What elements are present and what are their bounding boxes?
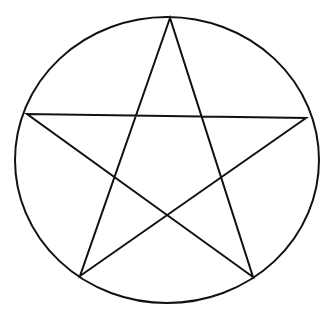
circle-outline — [15, 17, 319, 303]
pentagram-figure — [0, 0, 328, 322]
drawing-canvas — [0, 0, 328, 322]
pentagram-star — [27, 18, 306, 277]
